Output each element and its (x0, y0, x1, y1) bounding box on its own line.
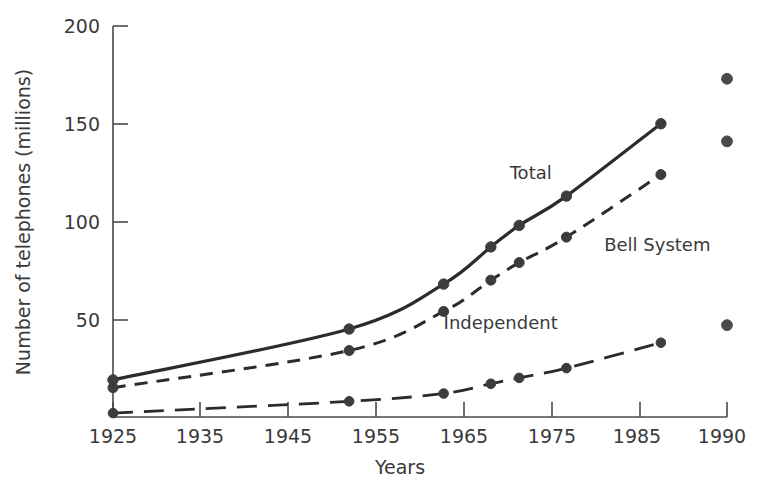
isolated-data-point (722, 320, 733, 331)
y-tick-labels: 200 150 100 50 (64, 15, 100, 331)
x-tick-label-1935: 1935 (176, 425, 224, 447)
isolated-data-point (722, 136, 733, 147)
y-tick-label-100: 100 (64, 211, 100, 233)
data-point (514, 373, 524, 383)
x-tick-label-1925: 1925 (89, 425, 137, 447)
data-point (439, 389, 449, 399)
series-points-independent (108, 338, 665, 418)
data-point (438, 279, 448, 289)
y-tick-label-200: 200 (64, 15, 100, 37)
data-point (656, 338, 666, 348)
isolated-data-point (722, 73, 733, 84)
x-tick-label-1985: 1985 (613, 425, 661, 447)
series-line-independent (113, 343, 661, 413)
y-axis-title: Number of telephones (millions) (12, 69, 34, 375)
data-point (486, 242, 496, 252)
data-point (108, 408, 118, 418)
series-label-independent: Independent (444, 312, 558, 333)
y-tick-marks (113, 26, 128, 320)
data-point (514, 220, 524, 230)
data-point (108, 375, 118, 385)
x-tick-label-1945: 1945 (264, 425, 312, 447)
data-point (344, 346, 354, 356)
data-point (486, 275, 496, 285)
series-line-bell-system (113, 175, 661, 388)
x-tick-labels: 1925 1935 1945 1955 1965 1975 1985 1990 (89, 425, 746, 447)
data-point (656, 119, 666, 129)
data-point (562, 363, 572, 373)
isolated-points-1990 (722, 73, 733, 330)
x-axis-title: Years (374, 456, 425, 478)
x-tick-label-1965: 1965 (440, 425, 488, 447)
series-points-total (108, 119, 666, 386)
x-tick-label-1975: 1975 (528, 425, 576, 447)
data-point (344, 324, 354, 334)
series-label-bell-system: Bell System (604, 234, 710, 255)
telephone-growth-chart: 200 150 100 50 Number of telephones (mil… (0, 0, 775, 487)
data-point (561, 191, 571, 201)
axis-group (113, 26, 727, 417)
figure-bottom-margin (0, 477, 775, 487)
series-label-total: Total (509, 162, 552, 183)
x-tick-label-1955: 1955 (352, 425, 400, 447)
series-points-bell-system (108, 170, 666, 393)
y-tick-label-150: 150 (64, 113, 100, 135)
data-point (486, 379, 496, 389)
data-point (344, 397, 354, 407)
series-line-total (113, 124, 661, 380)
x-tick-label-1990: 1990 (698, 425, 746, 447)
chart-canvas: 200 150 100 50 Number of telephones (mil… (0, 0, 775, 487)
data-point (561, 232, 571, 242)
y-tick-label-50: 50 (76, 309, 100, 331)
data-point (656, 170, 666, 180)
data-point (514, 258, 524, 268)
x-tick-marks (113, 402, 727, 417)
